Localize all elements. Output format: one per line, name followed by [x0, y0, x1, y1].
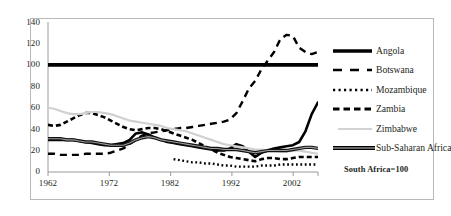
- chart-legend: Angola Botswana Mozambique Zambia Zimbab: [332, 41, 442, 158]
- legend-item-zimbabwe[interactable]: Zimbabwe: [332, 119, 442, 139]
- legend-item-sub-saharan-africa[interactable]: Sub-Saharan Africa: [332, 139, 442, 159]
- legend-label-mozambique: Mozambique: [376, 85, 427, 95]
- legend-item-mozambique[interactable]: Mozambique: [332, 80, 442, 100]
- series-group: [48, 35, 318, 167]
- series-line-botswana: [48, 35, 318, 155]
- solid-thick-line-icon: [332, 45, 376, 57]
- legend-note: South Africa=100: [344, 165, 408, 174]
- thick-line-icon: [332, 142, 376, 154]
- x-tick-marks: [48, 172, 318, 176]
- legend-item-zambia[interactable]: Zambia: [332, 100, 442, 120]
- short-dash-line-icon: [332, 103, 376, 115]
- legend-item-angola[interactable]: Angola: [332, 41, 442, 61]
- legend-label-zambia: Zambia: [376, 104, 405, 114]
- legend-label-botswana: Botswana: [376, 65, 414, 75]
- legend-label-angola: Angola: [376, 46, 404, 56]
- light-gray-line-icon: [332, 123, 376, 135]
- legend-label-zimbabwe: Zimbabwe: [376, 124, 417, 134]
- long-dash-line-icon: [332, 64, 376, 76]
- legend-item-botswana[interactable]: Botswana: [332, 61, 442, 81]
- dotted-line-icon: [332, 84, 376, 96]
- legend-label-sub-saharan-africa: Sub-Saharan Africa: [376, 143, 451, 153]
